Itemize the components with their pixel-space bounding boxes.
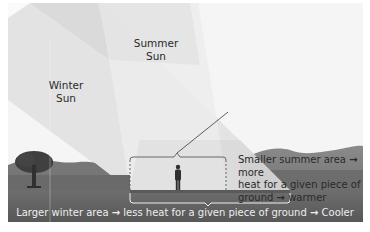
caption-text: less heat for a given piece of ground <box>123 207 307 218</box>
winter-caption: Larger winter area → less heat for a giv… <box>0 207 370 219</box>
summer-label-line2: Sun <box>116 50 196 63</box>
winter-sun-label: Winter Sun <box>36 79 96 105</box>
summer-sun-label: Summer Sun <box>116 37 196 63</box>
winter-label-line1: Winter <box>36 79 96 92</box>
callout-line-2: heat for a given piece of <box>238 179 368 192</box>
caption-text: Cooler <box>322 207 354 218</box>
summer-callout-text: Smaller summer area → more heat for a gi… <box>238 154 368 204</box>
callout-text: more <box>238 167 264 178</box>
callout-text: heat for a given piece of <box>238 179 360 190</box>
arrow-right-icon: → <box>277 192 285 203</box>
winter-label-line2: Sun <box>36 92 96 105</box>
arrow-right-icon: → <box>310 207 318 218</box>
callout-text: ground <box>238 192 273 203</box>
callout-text: Smaller summer area <box>238 154 346 165</box>
callout-line-1: Smaller summer area → more <box>238 154 368 179</box>
diagram-canvas: Summer Sun Winter Sun Smaller summer are… <box>0 0 370 232</box>
summer-label-line1: Summer <box>116 37 196 50</box>
arrow-right-icon: → <box>112 207 120 218</box>
callout-text: warmer <box>288 192 326 203</box>
caption-text: Larger winter area <box>16 207 108 218</box>
arrow-right-icon: → <box>349 154 357 165</box>
callout-line-3: ground → warmer <box>238 192 368 205</box>
